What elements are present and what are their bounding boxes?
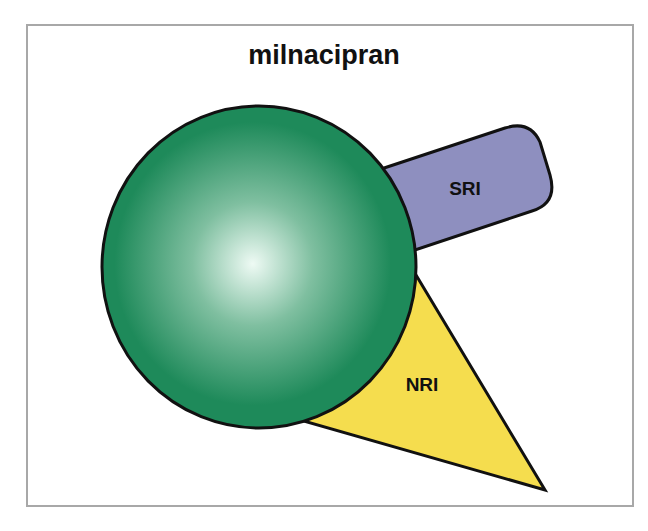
sri-label: SRI [449, 178, 481, 199]
diagram-canvas: SRI NRI [0, 0, 648, 531]
drug-sphere [102, 106, 416, 428]
nri-label: NRI [406, 374, 439, 395]
